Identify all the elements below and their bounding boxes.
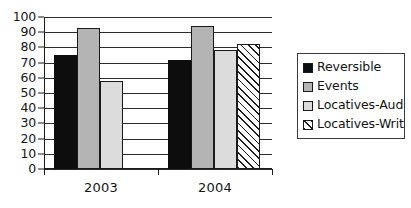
- legend-swatch-icon: [303, 82, 313, 92]
- y-axis-tick-label: 40: [20, 102, 36, 115]
- legend-item[interactable]: Locatives-Writ: [303, 115, 400, 134]
- bar: [168, 60, 191, 169]
- plot-area: [44, 17, 272, 169]
- y-axis-tick-label: 10: [20, 148, 36, 161]
- y-axis-tick-label: 60: [20, 72, 36, 85]
- bars-layer: [44, 17, 272, 169]
- y-axis-tick-label: 90: [20, 26, 36, 39]
- y-axis-tick-label: 100: [13, 11, 36, 24]
- chart-legend: ReversibleEventsLocatives-AudLocatives-W…: [297, 53, 405, 139]
- bar: [77, 28, 100, 169]
- x-axis-tick: [44, 169, 45, 175]
- bar: [214, 50, 237, 169]
- x-axis-category-label: 2004: [198, 180, 232, 195]
- legend-item[interactable]: Locatives-Aud: [303, 96, 400, 115]
- legend-item-label: Locatives-Writ: [317, 118, 404, 131]
- legend-swatch-icon: [303, 63, 313, 73]
- legend-swatch-icon: [303, 101, 313, 111]
- y-axis: 1009080706050403020100: [0, 17, 44, 169]
- x-axis-category-label: 2003: [84, 180, 118, 195]
- bar: [54, 55, 77, 169]
- bar-chart: 1009080706050403020100 20032004 Reversib…: [0, 0, 411, 208]
- legend-item-label: Reversible: [317, 61, 381, 74]
- bar: [191, 26, 214, 169]
- y-axis-tick-label: 30: [20, 117, 36, 130]
- y-axis-tick-label: 70: [20, 56, 36, 69]
- legend-item[interactable]: Reversible: [303, 58, 400, 77]
- y-axis-tick-label: 50: [20, 87, 36, 100]
- bar: [237, 44, 260, 169]
- x-axis-tick: [158, 169, 159, 175]
- legend-swatch-icon: [303, 120, 313, 130]
- y-axis-tick-label: 20: [20, 132, 36, 145]
- legend-item-label: Locatives-Aud: [317, 99, 403, 112]
- y-axis-tick-label: 80: [20, 41, 36, 54]
- y-axis-tick-label: 0: [28, 163, 36, 176]
- legend-item[interactable]: Events: [303, 77, 400, 96]
- bar: [100, 81, 123, 169]
- legend-item-label: Events: [317, 80, 359, 93]
- x-axis-tick: [272, 169, 273, 175]
